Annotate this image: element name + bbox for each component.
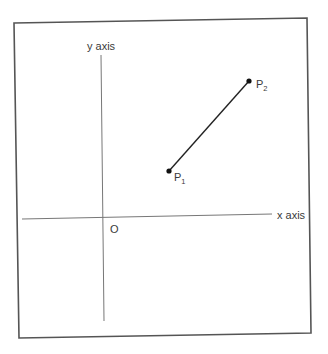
frame-border xyxy=(14,18,311,338)
segment-p1-p2 xyxy=(169,81,249,171)
origin-label: O xyxy=(110,223,119,235)
point-p2-label: P2 xyxy=(256,78,268,93)
x-axis-line xyxy=(22,214,272,219)
coordinate-diagram: y axis x axis O P1 P2 xyxy=(0,0,328,354)
y-axis-line xyxy=(101,55,104,321)
point-p1-label: P1 xyxy=(174,171,186,186)
x-axis-label: x axis xyxy=(277,209,306,221)
y-axis-label: y axis xyxy=(87,40,116,52)
point-p1 xyxy=(166,168,171,173)
point-p2 xyxy=(246,78,251,83)
